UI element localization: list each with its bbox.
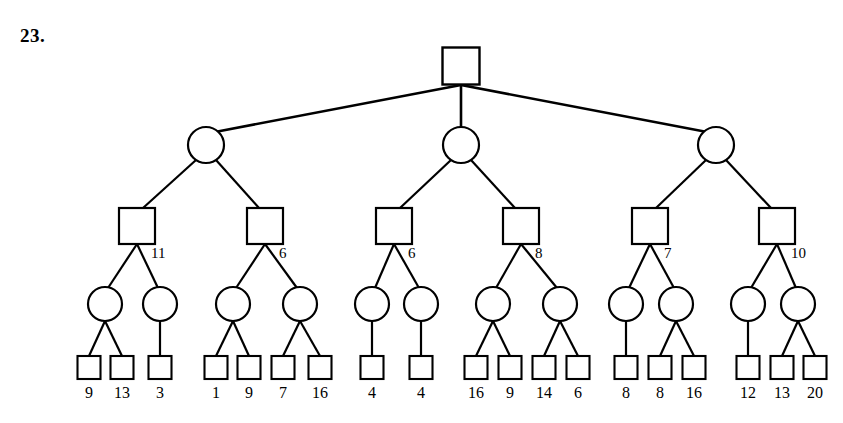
leaf-node[interactable] bbox=[804, 356, 827, 379]
level2-square-nodes: 11 6 6 8 7 10 bbox=[119, 208, 806, 261]
min-node-m9[interactable] bbox=[659, 287, 693, 321]
min-node-c1[interactable] bbox=[443, 127, 479, 163]
min-node-m5[interactable] bbox=[404, 287, 438, 321]
leaf-node[interactable] bbox=[737, 356, 760, 379]
min-node-m11[interactable] bbox=[781, 287, 815, 321]
edge-c0-s1 bbox=[216, 160, 259, 208]
max-node-s3[interactable] bbox=[503, 208, 539, 244]
leaf-node[interactable] bbox=[111, 356, 134, 379]
level1-circle-nodes bbox=[188, 127, 734, 163]
edge-s2-m4 bbox=[375, 244, 394, 288]
edge-m9-leaf15 bbox=[676, 321, 694, 356]
node-value-label-s3: 8 bbox=[535, 245, 543, 261]
leaf-value: 13 bbox=[774, 384, 790, 401]
edge-s5-m10 bbox=[751, 244, 777, 288]
leaf-value: 13 bbox=[114, 384, 130, 401]
leaf-value-labels: 9 13 3 1 9 7 16 4 4 16 9 14 6 8 8 16 12 … bbox=[85, 384, 823, 401]
leaf-value: 16 bbox=[686, 384, 702, 401]
leaf-value: 4 bbox=[417, 384, 425, 401]
edge-s0-m0 bbox=[108, 244, 137, 288]
min-node-m6[interactable] bbox=[476, 287, 510, 321]
edge-s3-m6 bbox=[496, 244, 521, 288]
edge-m6-leaf10 bbox=[493, 321, 510, 356]
edge-m3-leaf6 bbox=[300, 321, 320, 356]
node-value-label-s4: 7 bbox=[664, 245, 672, 261]
edge-c1-s3 bbox=[471, 160, 515, 208]
node-value-label-s5: 10 bbox=[791, 245, 806, 261]
max-node-s5[interactable] bbox=[759, 208, 795, 244]
leaf-square-nodes bbox=[78, 356, 827, 379]
leaf-node[interactable] bbox=[309, 356, 332, 379]
min-node-m1[interactable] bbox=[143, 287, 177, 321]
leaf-value: 4 bbox=[368, 384, 376, 401]
max-node-s1[interactable] bbox=[247, 208, 283, 244]
leaf-node[interactable] bbox=[567, 356, 590, 379]
leaf-node[interactable] bbox=[149, 356, 172, 379]
edge-m7-leaf12 bbox=[560, 321, 578, 356]
node-value-label-s0: 11 bbox=[151, 245, 165, 261]
leaf-value: 9 bbox=[85, 384, 93, 401]
min-node-m0[interactable] bbox=[88, 287, 122, 321]
leaf-node[interactable] bbox=[361, 356, 384, 379]
leaf-node[interactable] bbox=[272, 356, 295, 379]
min-node-c2[interactable] bbox=[698, 127, 734, 163]
leaf-value: 1 bbox=[212, 384, 220, 401]
max-node-s0[interactable] bbox=[119, 208, 155, 244]
edge-c2-s5 bbox=[726, 160, 771, 208]
edges-level3-to-leaves bbox=[89, 321, 815, 356]
min-node-m8[interactable] bbox=[609, 287, 643, 321]
node-value-label-s1: 6 bbox=[279, 245, 287, 261]
leaf-value: 7 bbox=[279, 384, 287, 401]
leaf-value: 12 bbox=[740, 384, 756, 401]
leaf-value: 8 bbox=[622, 384, 630, 401]
edge-m0-leaf0 bbox=[89, 321, 105, 356]
min-node-m7[interactable] bbox=[543, 287, 577, 321]
leaf-node[interactable] bbox=[78, 356, 101, 379]
min-node-m10[interactable] bbox=[731, 287, 765, 321]
leaf-node[interactable] bbox=[533, 356, 556, 379]
edge-m2-leaf4 bbox=[233, 321, 249, 356]
edge-m6-leaf9 bbox=[476, 321, 493, 356]
edge-m11-leaf18 bbox=[798, 321, 815, 356]
edge-c1-s2 bbox=[400, 160, 451, 208]
edge-c0-s0 bbox=[143, 160, 196, 208]
leaf-node[interactable] bbox=[465, 356, 488, 379]
leaf-value: 3 bbox=[156, 384, 164, 401]
max-node-s2[interactable] bbox=[376, 208, 412, 244]
leaf-node[interactable] bbox=[649, 356, 672, 379]
max-node-s4[interactable] bbox=[632, 208, 668, 244]
edge-s4-m8 bbox=[629, 244, 650, 288]
leaf-value: 20 bbox=[807, 384, 823, 401]
leaf-value: 16 bbox=[468, 384, 484, 401]
edges-level1-to-level2 bbox=[143, 160, 771, 208]
leaf-value: 6 bbox=[574, 384, 582, 401]
leaf-value: 8 bbox=[656, 384, 664, 401]
leaf-node[interactable] bbox=[238, 356, 261, 379]
min-node-m2[interactable] bbox=[216, 287, 250, 321]
leaf-node[interactable] bbox=[410, 356, 433, 379]
min-node-m3[interactable] bbox=[283, 287, 317, 321]
edge-root-c2 bbox=[461, 85, 707, 132]
min-node-m4[interactable] bbox=[355, 287, 389, 321]
leaf-value: 9 bbox=[245, 384, 253, 401]
edge-m3-leaf5 bbox=[283, 321, 300, 356]
min-node-c0[interactable] bbox=[188, 127, 224, 163]
edge-s1-m2 bbox=[236, 244, 265, 288]
leaf-node[interactable] bbox=[205, 356, 228, 379]
leaf-value: 9 bbox=[506, 384, 514, 401]
leaf-node[interactable] bbox=[771, 356, 794, 379]
edge-m11-leaf17 bbox=[782, 321, 798, 356]
edge-m0-leaf1 bbox=[105, 321, 122, 356]
leaf-value: 16 bbox=[312, 384, 328, 401]
edge-m9-leaf14 bbox=[660, 321, 676, 356]
edge-root-c0 bbox=[215, 85, 461, 132]
leaf-node[interactable] bbox=[615, 356, 638, 379]
edges-level2-to-level3 bbox=[108, 244, 796, 288]
leaf-node[interactable] bbox=[683, 356, 706, 379]
node-value-label-s2: 6 bbox=[408, 245, 416, 261]
root-node-square[interactable] bbox=[443, 48, 480, 85]
game-tree-diagram: 11 6 6 8 7 10 bbox=[0, 0, 843, 423]
edge-m7-leaf11 bbox=[544, 321, 560, 356]
leaf-node[interactable] bbox=[499, 356, 522, 379]
edge-m2-leaf3 bbox=[216, 321, 233, 356]
